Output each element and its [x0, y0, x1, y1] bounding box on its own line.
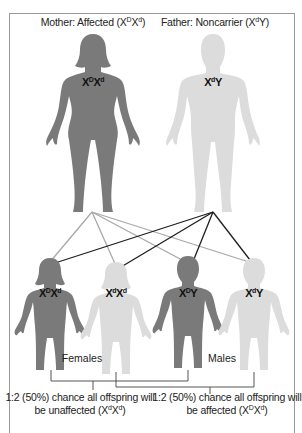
males-label: Males [208, 352, 236, 364]
father-figure [166, 34, 260, 212]
offspring-2-genotype: XdXd [105, 287, 126, 299]
caption-affected-line1: 1:2 (50%) chance all offspring will [152, 391, 301, 404]
father-label: Father: Noncarrier (XdY) [161, 16, 269, 28]
father-genotype: XdY [204, 76, 221, 88]
females-label: Females [62, 352, 102, 364]
mother-label: Mother: Affected (XDXd) [41, 16, 146, 28]
mother-genotype: XDXd [82, 76, 104, 88]
offspring-1-genotype: XDXd [39, 287, 61, 299]
offspring-3-genotype: XDY [179, 287, 197, 299]
caption-affected: 1:2 (50%) chance all offspring will be a… [152, 391, 301, 417]
mother-figure [46, 34, 140, 212]
offspring-4-genotype: XdY [245, 287, 262, 299]
caption-unaffected-line2: be unaffected (XdXd) [5, 404, 154, 417]
caption-unaffected: 1:2 (50%) chance all offspring will be u… [5, 391, 154, 417]
caption-affected-line2: be affected (XDXd) [152, 404, 301, 417]
caption-unaffected-line1: 1:2 (50%) chance all offspring will [5, 391, 154, 404]
